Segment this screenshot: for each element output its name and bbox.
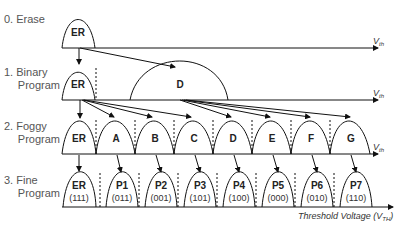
foggy-curves	[62, 121, 370, 154]
x-axis-title: Threshold Voltage (VTH)	[298, 211, 393, 222]
svg-text:D: D	[176, 79, 183, 90]
svg-text:P5: P5	[272, 180, 285, 191]
svg-text:P3: P3	[194, 180, 207, 191]
svg-text:F: F	[308, 133, 314, 144]
svg-text:A: A	[112, 133, 119, 144]
svg-text:P6: P6	[311, 180, 324, 191]
svg-text:ER: ER	[71, 79, 86, 90]
svg-text:(001): (001)	[150, 193, 171, 203]
svg-text:D: D	[229, 133, 236, 144]
svg-text:P7: P7	[350, 180, 363, 191]
svg-text:ER: ER	[71, 27, 86, 38]
svg-text:B: B	[151, 133, 158, 144]
svg-text:Vth: Vth	[373, 36, 385, 47]
svg-text:ER: ER	[72, 180, 87, 191]
svg-text:Vth: Vth	[373, 142, 385, 153]
svg-text:C: C	[190, 133, 197, 144]
svg-text:(000): (000)	[267, 193, 288, 203]
diagram-canvas: ER ER D ER A B C D E F G ER P1 P2 P3 P4 …	[0, 0, 401, 233]
svg-text:E: E	[269, 133, 276, 144]
svg-text:(111): (111)	[69, 193, 89, 203]
svg-text:(100): (100)	[228, 193, 249, 203]
svg-text:P2: P2	[155, 180, 168, 191]
svg-text:(011): (011)	[112, 193, 132, 203]
svg-text:(110): (110)	[346, 193, 366, 203]
svg-text:G: G	[347, 133, 355, 144]
svg-text:P1: P1	[116, 180, 129, 191]
svg-text:(101): (101)	[189, 193, 210, 203]
threshold-voltage-programming-diagram: 0. Erase 1. BinaryProgram 2. FoggyProgra…	[0, 0, 401, 233]
svg-text:P4: P4	[233, 180, 246, 191]
svg-text:ER: ER	[72, 133, 87, 144]
svg-text:Vth: Vth	[373, 88, 385, 99]
svg-text:(010): (010)	[306, 193, 327, 203]
